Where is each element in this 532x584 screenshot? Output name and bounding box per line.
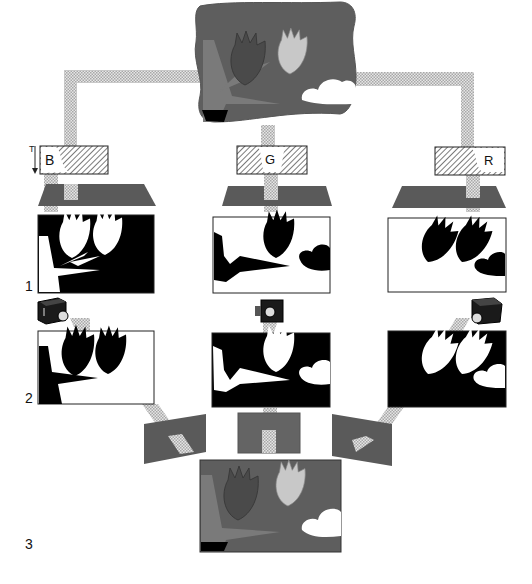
recombination-filters [144,413,392,466]
negative-green [213,209,330,293]
projector-center [255,300,283,322]
row-label-positives: 2 [25,390,33,406]
projector-right [472,298,502,324]
combined-image [200,460,341,552]
negative-blue [38,209,154,293]
color-separation-diagram: B T G R [0,0,532,584]
row-label-combined: 3 [25,536,33,552]
transmission-axis-label: T [29,144,35,154]
positive-red [388,324,506,407]
positive-green [212,323,330,407]
light-path-red [340,72,474,148]
filter-plates [38,184,506,208]
filter-letter-b: B [45,152,54,168]
row-label-negatives: 1 [25,278,33,294]
light-path-green [261,125,275,149]
projector-left [38,298,68,324]
original-image [195,2,356,122]
negative-red [388,212,506,292]
light-path-blue [64,70,210,148]
filter-blue: B T [29,144,108,174]
filter-green: G [237,146,307,174]
filter-letter-r: R [484,153,493,168]
filter-letter-g: G [265,152,275,167]
positive-blue [38,325,154,404]
filter-red: R [435,147,505,175]
